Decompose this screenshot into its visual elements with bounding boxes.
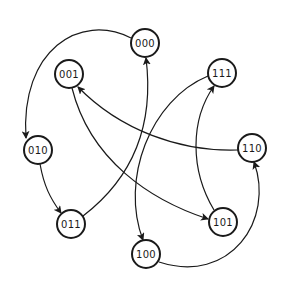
node-label: 100 — [136, 249, 156, 260]
node-label: 101 — [213, 217, 233, 228]
edge-001-to-101 — [72, 88, 208, 219]
state-diagram: 000001111010110011101100 — [0, 0, 287, 286]
node-label: 010 — [28, 145, 48, 156]
state-graph-canvas: 000001111010110011101100 — [0, 0, 287, 286]
state-node-001: 001 — [55, 60, 83, 88]
state-node-000: 000 — [131, 29, 159, 57]
node-label: 011 — [61, 219, 81, 230]
state-node-011: 011 — [57, 210, 85, 238]
node-label: 110 — [242, 143, 262, 154]
state-node-110: 110 — [238, 134, 266, 162]
state-node-111: 111 — [208, 59, 236, 87]
nodes-layer: 000001111010110011101100 — [24, 29, 266, 268]
node-label: 000 — [135, 38, 155, 49]
node-label: 001 — [59, 69, 79, 80]
node-label: 111 — [212, 68, 232, 79]
edge-010-to-011 — [40, 164, 61, 213]
edge-100-to-110 — [159, 162, 259, 267]
state-node-101: 101 — [209, 208, 237, 236]
state-node-010: 010 — [24, 136, 52, 164]
state-node-100: 100 — [132, 240, 160, 268]
